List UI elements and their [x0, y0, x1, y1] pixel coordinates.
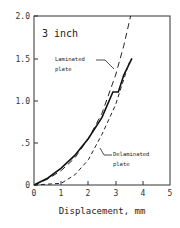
x-tick: 1 — [59, 189, 64, 198]
y-tick: 1.0 — [16, 97, 31, 106]
x-axis-label: Displacement, mm — [59, 206, 146, 216]
y-tick: 2.0 — [16, 12, 31, 21]
laminated-label: Laminated — [55, 56, 85, 62]
delaminated-leader — [100, 148, 112, 155]
delaminated-label: plate — [113, 161, 130, 168]
plot-frame — [34, 16, 170, 185]
laminated-label: plate — [55, 66, 72, 73]
y-axis — [34, 16, 38, 185]
x-tick: 3 — [114, 189, 119, 198]
y-tick: 0 — [25, 181, 30, 190]
chart: 0 .5 1.0 1.5 2.0 0 1 2 3 4 5 Displacemen… — [0, 0, 180, 228]
laminated-plate-line — [34, 16, 131, 185]
laminated-leader — [96, 60, 114, 69]
x-tick: 5 — [168, 189, 173, 198]
x-tick: 4 — [141, 189, 146, 198]
x-axis — [61, 181, 143, 185]
x-tick: 2 — [86, 189, 91, 198]
delaminated-label: Delaminated — [113, 151, 149, 157]
y-tick: .5 — [20, 139, 30, 148]
y-tick: 1.5 — [16, 55, 31, 64]
x-tick: 0 — [32, 189, 37, 198]
chart-title: 3 inch — [42, 28, 78, 39]
